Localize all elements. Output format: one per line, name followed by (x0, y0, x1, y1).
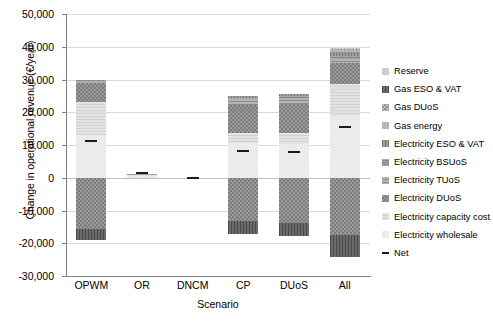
stacked-bar[interactable] (127, 14, 157, 276)
legend-item-label: Gas DUoS (394, 102, 438, 112)
bar-slot (117, 14, 168, 276)
bar-segment (228, 105, 258, 133)
bar-segment (279, 98, 309, 104)
y-axis-tick-label: 0 (0, 173, 54, 183)
bar-segment (228, 133, 258, 143)
bar-segment (279, 133, 309, 144)
bar-segment (330, 48, 360, 49)
legend-item-label: Electricity TUoS (394, 175, 460, 185)
legend-item[interactable]: Gas DUoS (382, 98, 493, 116)
legend-item[interactable]: Electricity wholesale (382, 226, 493, 244)
legend-item[interactable]: Electricity DUoS (382, 189, 493, 207)
y-axis-tick-label: 20,000 (0, 107, 54, 117)
legend-item-label: Net (394, 248, 408, 258)
legend-item-label: Electricity ESO & VAT (394, 139, 484, 149)
bar-slot (218, 14, 269, 276)
gas-energy-swatch (382, 122, 389, 129)
plot-area (66, 14, 370, 276)
gas-eso-vat-swatch (382, 86, 389, 93)
y-axis-tick-label: -20,000 (0, 238, 54, 248)
y-axis-tick-label: -10,000 (0, 206, 54, 216)
legend-item-label: Gas ESO & VAT (394, 84, 461, 94)
bar-segment (330, 50, 360, 52)
bar-segment (228, 96, 258, 98)
bar-slot (269, 14, 320, 276)
bar-segment (279, 223, 309, 236)
bar-segment (127, 175, 157, 176)
bar-slot (66, 14, 117, 276)
bar-segment (330, 59, 360, 63)
bar-segment (330, 63, 360, 84)
chart-legend: ReserveGas ESO & VATGas DUoSGas energyEl… (382, 62, 493, 262)
legend-item[interactable]: Gas energy (382, 117, 493, 135)
legend-item-label: Electricity capacity cost (394, 212, 490, 222)
bar-segment (228, 221, 258, 234)
bar-segment (279, 178, 309, 223)
x-axis-line (66, 276, 371, 277)
electricity-bsuos-swatch (382, 159, 389, 166)
electricity-duos-swatch (382, 195, 389, 202)
y-axis-tick-labels: 50,00040,00030,00020,00010,0000-10,000-2… (0, 14, 54, 276)
bar-segment (228, 99, 258, 105)
electricity-wholesale-swatch (382, 231, 389, 238)
y-axis-tick-label: 10,000 (0, 140, 54, 150)
stacked-bar[interactable] (228, 14, 258, 276)
y-axis-tick-label: -30,000 (0, 271, 54, 281)
chart-figure: Change in operational revenue (€/year) 5… (0, 0, 493, 324)
legend-item[interactable]: Electricity ESO & VAT (382, 135, 493, 153)
legend-item[interactable]: Electricity capacity cost (382, 208, 493, 226)
bar-segment (228, 178, 258, 221)
stacked-bar[interactable] (279, 14, 309, 276)
x-axis-title: Scenario (66, 298, 370, 310)
bar-segment (228, 143, 258, 178)
stacked-bar[interactable] (178, 14, 208, 276)
bar-segment (76, 102, 106, 135)
bar-segment (127, 175, 157, 177)
reserve-swatch (382, 68, 389, 75)
x-axis-tick-label: DNCM (167, 279, 218, 291)
stacked-bar[interactable] (330, 14, 360, 276)
legend-item-label: Reserve (394, 66, 429, 76)
x-axis-tick-label: All (319, 279, 370, 291)
legend-item[interactable]: Net (382, 244, 493, 262)
bar-segment (76, 229, 106, 240)
bar-segment (279, 94, 309, 96)
legend-item-label: Electricity wholesale (394, 230, 478, 240)
net-marker (187, 177, 199, 179)
x-axis-tick-label: OPWM (66, 279, 117, 291)
bar-segment (330, 178, 360, 235)
gas-duos-swatch (382, 104, 389, 111)
legend-item[interactable]: Electricity BSUoS (382, 153, 493, 171)
bar-segment (330, 56, 360, 59)
x-axis-tick-label: CP (218, 279, 269, 291)
bar-segment (330, 52, 360, 56)
legend-item[interactable]: Reserve (382, 62, 493, 80)
net-marker (237, 150, 249, 152)
bar-segment (76, 81, 106, 82)
net-marker (339, 126, 351, 128)
legend-item[interactable]: Electricity TUoS (382, 171, 493, 189)
bar-segment (76, 83, 106, 102)
stacked-bar[interactable] (76, 14, 106, 276)
bar-segment (330, 49, 360, 50)
bar-segment (76, 80, 106, 81)
bar-segment (330, 235, 360, 257)
x-axis-tick-label: OR (117, 279, 168, 291)
legend-item[interactable]: Gas ESO & VAT (382, 80, 493, 98)
bar-segment (76, 178, 106, 229)
x-axis-tick-label: DUoS (269, 279, 320, 291)
bar-segment (330, 84, 360, 115)
bar-segment (279, 104, 309, 132)
bar-segment (76, 82, 106, 83)
y-axis-tick-label: 50,000 (0, 9, 54, 19)
bar-segment (228, 98, 258, 100)
net-marker (136, 172, 148, 174)
bar-slot (167, 14, 218, 276)
bar-slot (319, 14, 370, 276)
x-axis-tick-labels: OPWMORDNCMCPDUoSAll (66, 279, 370, 295)
electricity-tuos-swatch (382, 177, 389, 184)
net-marker (288, 151, 300, 153)
electricity-capacity-cost-swatch (382, 213, 389, 220)
y-axis-tick-label: 40,000 (0, 42, 54, 52)
net-marker-swatch (382, 252, 389, 254)
